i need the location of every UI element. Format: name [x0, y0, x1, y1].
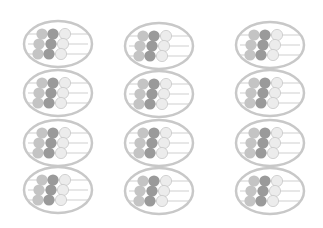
abacus-icon	[234, 20, 306, 70]
abacus-icon	[22, 118, 94, 168]
abacus-icon	[22, 165, 94, 215]
abacus-icon	[234, 68, 306, 118]
abacus-icon	[123, 118, 195, 168]
abacus-icon	[123, 69, 195, 119]
abacus-icon	[234, 118, 306, 168]
abacus-icon	[22, 68, 94, 118]
abacus-icon	[123, 21, 195, 71]
abacus-icon	[123, 166, 195, 216]
abacus-icon	[234, 166, 306, 216]
abacus-icon	[22, 19, 94, 69]
